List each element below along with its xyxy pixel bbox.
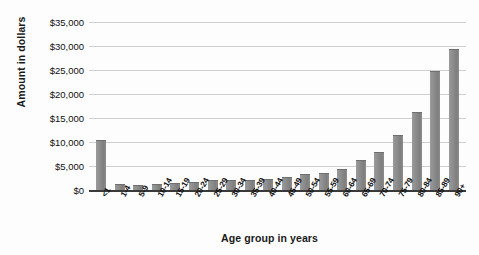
bar-slot — [389, 22, 408, 190]
bar-slot — [259, 22, 278, 190]
bar-slot — [407, 22, 426, 190]
bar-slot — [166, 22, 185, 190]
bar — [96, 140, 106, 190]
y-tick-label: $5,000 — [10, 160, 84, 171]
x-tick-slot: 10-14 — [148, 192, 167, 232]
y-tick-label: $25,000 — [10, 64, 84, 75]
y-tick-label: $10,000 — [10, 136, 84, 147]
x-tick-slot: 85-89 — [426, 192, 445, 232]
bar-slot — [111, 22, 130, 190]
bar-slot — [277, 22, 296, 190]
x-tick-slot: 75-79 — [389, 192, 408, 232]
x-tick-slot: 90+ — [444, 192, 463, 232]
x-tick-slot: 65-69 — [352, 192, 371, 232]
bar-slot — [92, 22, 111, 190]
x-tick-slot: 30-34 — [222, 192, 241, 232]
y-tick-label: $35,000 — [10, 17, 84, 28]
bar-slot — [315, 22, 334, 190]
bar-slot — [222, 22, 241, 190]
bar-slot — [129, 22, 148, 190]
x-axis-tick-labels: <11-45-910-1415-1920-2425-2930-3435-3940… — [89, 192, 466, 232]
bar-slot — [426, 22, 445, 190]
bar — [430, 71, 440, 190]
plot-area — [89, 22, 466, 190]
bar-series — [89, 22, 466, 190]
x-tick-slot: 80-84 — [407, 192, 426, 232]
bar-slot — [203, 22, 222, 190]
x-axis-title: Age group in years — [0, 232, 479, 244]
x-tick-slot: 1-4 — [111, 192, 130, 232]
y-tick-label: $20,000 — [10, 88, 84, 99]
x-tick-slot: 40-44 — [259, 192, 278, 232]
x-tick-slot: <1 — [92, 192, 111, 232]
x-tick-slot: 60-64 — [333, 192, 352, 232]
bar-slot — [444, 22, 463, 190]
bar-slot — [370, 22, 389, 190]
x-tick-slot: 55-59 — [315, 192, 334, 232]
bar-slot — [296, 22, 315, 190]
x-tick-slot: 15-19 — [166, 192, 185, 232]
x-tick-slot: 45-49 — [277, 192, 296, 232]
x-tick-slot: 70-74 — [370, 192, 389, 232]
y-tick-label: $0 — [10, 185, 84, 196]
bar — [449, 49, 459, 190]
x-tick-slot: 20-24 — [185, 192, 204, 232]
x-tick-slot: 25-29 — [203, 192, 222, 232]
bar — [412, 112, 422, 190]
bar-slot — [240, 22, 259, 190]
bar-slot — [148, 22, 167, 190]
x-tick-slot: 5-9 — [129, 192, 148, 232]
bar-slot — [352, 22, 371, 190]
y-tick-label: $15,000 — [10, 112, 84, 123]
y-axis-tick-labels: $35,000 $30,000 $25,000 $20,000 $15,000 … — [8, 22, 84, 190]
x-tick-slot: 50-54 — [296, 192, 315, 232]
x-tick-slot: 35-39 — [240, 192, 259, 232]
y-tick-label: $30,000 — [10, 40, 84, 51]
bar-slot — [333, 22, 352, 190]
bar-slot — [185, 22, 204, 190]
bar-chart-figure: Amount in dollars $35,000 $30,000 $25,00… — [0, 0, 479, 255]
